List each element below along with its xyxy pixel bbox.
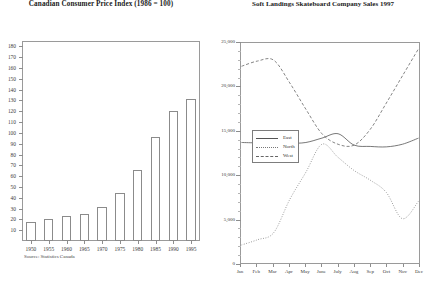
cpi-chart-panel: Canadian Consumer Price Index (1986 = 10… — [0, 0, 218, 298]
cpi-chart-title: Canadian Consumer Price Index (1986 = 10… — [0, 0, 202, 8]
legend-label: West — [283, 153, 293, 158]
sales-y-minor-tick — [238, 193, 241, 194]
cpi-x-tick — [49, 241, 50, 244]
cpi-y-tick — [19, 68, 23, 69]
cpi-bar — [44, 219, 53, 241]
cpi-bar — [133, 170, 142, 241]
sales-y-tick — [236, 42, 241, 43]
sales-x-tick — [273, 264, 274, 267]
cpi-bar — [80, 214, 89, 241]
sales-y-tick — [236, 220, 241, 221]
sales-y-tick-label: 25,000 — [213, 39, 235, 44]
sales-y-minor-tick — [238, 51, 241, 52]
sales-y-minor-tick — [238, 104, 241, 105]
sales-y-minor-tick — [238, 255, 241, 256]
cpi-bar — [169, 111, 178, 241]
sales-y-minor-tick — [238, 60, 241, 61]
cpi-y-tick — [19, 111, 23, 112]
sales-y-minor-tick — [238, 211, 241, 212]
sales-x-tick — [403, 264, 404, 267]
sales-y-minor-tick — [238, 122, 241, 123]
cpi-bar — [186, 99, 195, 241]
cpi-x-tick — [138, 241, 139, 244]
legend-item-north: North — [256, 142, 295, 151]
cpi-y-tick-label: 80 — [0, 152, 16, 158]
sales-y-tick — [236, 131, 241, 132]
cpi-y-tick-label: 130 — [0, 97, 16, 103]
cpi-y-tick — [19, 209, 23, 210]
sales-y-minor-tick — [238, 246, 241, 247]
cpi-y-tick — [19, 165, 23, 166]
cpi-y-tick-label: 140 — [0, 87, 16, 93]
cpi-x-tick-label: 1995 — [180, 246, 202, 252]
sales-x-tick — [321, 264, 322, 267]
cpi-y-tick-label: 170 — [0, 54, 16, 60]
sales-y-minor-tick — [238, 202, 241, 203]
cpi-y-tick-label: 160 — [0, 65, 16, 71]
sales-y-minor-tick — [238, 184, 241, 185]
sales-x-tick — [338, 264, 339, 267]
sales-y-tick-label: 10,000 — [213, 172, 235, 177]
cpi-x-tick — [84, 241, 85, 244]
cpi-y-tick-label: 180 — [0, 43, 16, 49]
cpi-y-tick — [19, 57, 23, 58]
sales-x-tick — [305, 264, 306, 267]
cpi-y-tick — [19, 144, 23, 145]
sales-y-minor-tick — [238, 166, 241, 167]
cpi-y-tick-label: 110 — [0, 119, 16, 125]
sales-x-tick — [419, 264, 420, 267]
cpi-y-tick — [19, 133, 23, 134]
cpi-y-tick-label: 70 — [0, 162, 16, 168]
cpi-y-tick — [19, 79, 23, 80]
sales-y-tick — [236, 175, 241, 176]
cpi-y-tick-label: 120 — [0, 108, 16, 114]
cpi-y-tick — [19, 176, 23, 177]
legend-item-west: West — [256, 151, 295, 160]
sales-y-minor-tick — [238, 69, 241, 70]
sales-x-tick — [240, 264, 241, 267]
cpi-x-tick — [120, 241, 121, 244]
cpi-bar — [151, 137, 160, 241]
sales-chart-title: Soft Landings Skateboard Company Sales 1… — [218, 0, 428, 8]
sales-y-minor-tick — [238, 157, 241, 158]
sales-y-minor-tick — [238, 149, 241, 150]
cpi-y-tick — [19, 122, 23, 123]
cpi-y-tick — [19, 230, 23, 231]
cpi-x-tick — [31, 241, 32, 244]
cpi-bar — [115, 193, 124, 241]
sales-x-tick — [289, 264, 290, 267]
sales-chart-panel: Soft Landings Skateboard Company Sales 1… — [218, 0, 435, 298]
cpi-x-tick — [156, 241, 157, 244]
sales-y-minor-tick — [238, 237, 241, 238]
cpi-bar — [97, 207, 106, 241]
cpi-source-note: Source: Statistics Canada — [24, 254, 75, 259]
sales-x-tick — [256, 264, 257, 267]
cpi-x-tick — [173, 241, 174, 244]
cpi-y-tick — [19, 46, 23, 47]
cpi-y-tick — [19, 187, 23, 188]
cpi-y-tick — [19, 100, 23, 101]
sales-y-minor-tick — [238, 228, 241, 229]
cpi-y-tick — [19, 219, 23, 220]
cpi-y-tick-label: 60 — [0, 173, 16, 179]
cpi-y-tick-label: 50 — [0, 184, 16, 190]
sales-x-tick-label: Dec — [410, 269, 428, 274]
cpi-bar — [62, 216, 71, 241]
sales-y-minor-tick — [238, 95, 241, 96]
cpi-y-tick-label: 40 — [0, 195, 16, 201]
sales-y-tick-label: 5,000 — [213, 217, 235, 222]
legend-item-east: East — [256, 133, 295, 142]
sales-y-tick-label: 15,000 — [213, 128, 235, 133]
cpi-x-tick — [102, 241, 103, 244]
cpi-y-tick — [19, 198, 23, 199]
cpi-y-tick — [19, 155, 23, 156]
legend-label: North — [283, 144, 295, 149]
legend-label: East — [283, 135, 292, 140]
cpi-bar — [26, 222, 35, 241]
charts-page: Canadian Consumer Price Index (1986 = 10… — [0, 0, 435, 298]
cpi-x-tick — [191, 241, 192, 244]
sales-x-tick — [386, 264, 387, 267]
cpi-y-tick-label: 100 — [0, 130, 16, 136]
sales-y-minor-tick — [238, 113, 241, 114]
sales-x-tick — [370, 264, 371, 267]
